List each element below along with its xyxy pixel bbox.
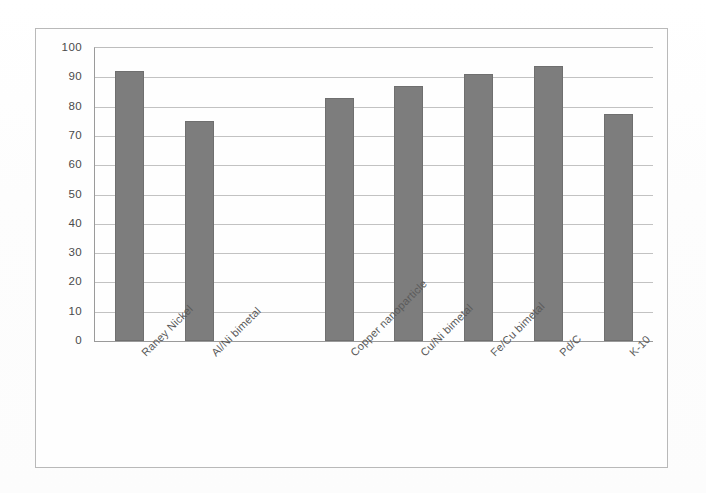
x-axis: Raney NickelAl/Ni bimetalCopper nanopart…: [94, 342, 653, 462]
bar: [325, 98, 354, 341]
plot-area: [94, 47, 653, 342]
y-axis-tick-label: 50: [68, 188, 82, 200]
y-axis-tick-label: 70: [68, 129, 82, 141]
y-axis-tick-label: 60: [68, 158, 82, 170]
y-axis-tick-label: 80: [68, 100, 82, 112]
gridline: [95, 107, 653, 108]
x-axis-tick-label: Fe/Cu bimetal: [488, 350, 496, 358]
gridline: [95, 77, 653, 78]
y-axis-tick-label: 40: [68, 217, 82, 229]
y-axis-tick-label: 20: [68, 275, 82, 287]
gridline: [95, 253, 653, 254]
gridline: [95, 195, 653, 196]
y-axis-tick-label: 10: [68, 305, 82, 317]
gridline: [95, 282, 653, 283]
bar: [604, 114, 633, 341]
chart-frame: 1009080706050403020100 Raney NickelAl/Ni…: [35, 28, 668, 468]
bar: [115, 71, 144, 341]
bar: [464, 74, 493, 341]
x-axis-tick-label: Cu/Ni bimetal: [418, 350, 426, 358]
y-axis-tick-label: 100: [62, 41, 82, 53]
y-axis: 1009080706050403020100: [36, 47, 88, 342]
x-axis-tick-label: Copper nanoparticle: [348, 350, 356, 358]
gridline: [95, 165, 653, 166]
x-axis-tick-label: Raney Nickel: [139, 350, 147, 358]
y-axis-tick-label: 0: [75, 334, 82, 346]
gridline: [95, 136, 653, 137]
y-axis-tick-label: 90: [68, 70, 82, 82]
x-axis-tick-label: Al/Ni bimetal: [209, 350, 217, 358]
x-axis-tick-label: K-10: [627, 350, 635, 358]
gridline: [95, 224, 653, 225]
y-axis-tick-label: 30: [68, 246, 82, 258]
x-axis-tick-label: Pd/C: [557, 350, 565, 358]
